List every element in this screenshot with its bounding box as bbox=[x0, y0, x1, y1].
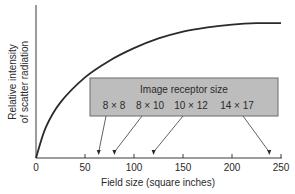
image-receptor-title: Image receptor size bbox=[140, 84, 228, 95]
y-axis-title-line2: of scatter radiation bbox=[19, 41, 30, 123]
arrow-line bbox=[154, 116, 183, 152]
x-tick-label: 150 bbox=[175, 162, 192, 173]
arrow-line bbox=[99, 116, 106, 152]
receptor-size-label: 8 × 10 bbox=[136, 100, 165, 111]
receptor-size-arrows bbox=[97, 116, 272, 155]
arrow-line bbox=[243, 116, 269, 152]
x-tick-label: 50 bbox=[79, 162, 91, 173]
x-tick-label: 200 bbox=[224, 162, 241, 173]
arrow-head-icon bbox=[152, 150, 156, 155]
arrow-head-icon bbox=[112, 150, 116, 155]
x-axis-title: Field size (square inches) bbox=[101, 177, 215, 188]
x-tick-labels: 050100150200250 bbox=[33, 162, 290, 173]
receptor-size-label: 10 × 12 bbox=[174, 100, 208, 111]
receptor-size-label: 14 × 17 bbox=[220, 100, 254, 111]
receptor-size-label: 8 × 8 bbox=[103, 100, 126, 111]
arrow-head-icon bbox=[267, 150, 271, 155]
arrow-head-icon bbox=[97, 150, 101, 155]
arrow-line bbox=[114, 116, 142, 152]
x-tick-label: 100 bbox=[126, 162, 143, 173]
y-axis-title-line1: Relative intensity bbox=[7, 44, 18, 120]
x-tick-label: 250 bbox=[273, 162, 290, 173]
x-tick-label: 0 bbox=[33, 162, 39, 173]
scatter-radiation-chart: 050100150200250 Image receptor size 8 × … bbox=[0, 0, 295, 194]
